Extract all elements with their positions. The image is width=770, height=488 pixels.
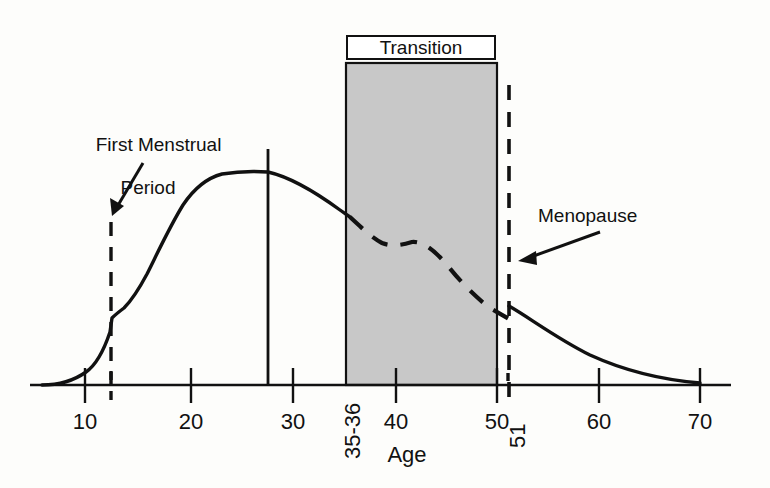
x-axis-title: Age	[377, 443, 437, 468]
fertility-curve-solid-post	[509, 306, 700, 383]
tick-label-20: 20	[168, 409, 214, 435]
transition-shaded-region	[346, 63, 497, 385]
first-menstrual-period-label-line1: First Menstrual	[96, 134, 222, 155]
tick-label-10: 10	[62, 409, 108, 435]
tick-label-70: 70	[677, 409, 723, 435]
menopause-label: Menopause	[538, 205, 637, 226]
tick-label-40: 40	[373, 409, 419, 435]
tick-label-35-36: 35-36	[340, 403, 366, 459]
first-menstrual-period-label: First Menstrual Period	[58, 113, 238, 241]
first-menstrual-period-label-line2: Period	[58, 177, 238, 198]
fertility-age-chart: Transition First Menstrual Period Menopa…	[0, 0, 770, 488]
tick-label-60: 60	[576, 409, 622, 435]
tick-label-51: 51	[505, 424, 531, 448]
transition-label: Transition	[346, 37, 496, 58]
tick-label-30: 30	[270, 409, 316, 435]
menopause-arrow	[518, 232, 600, 265]
